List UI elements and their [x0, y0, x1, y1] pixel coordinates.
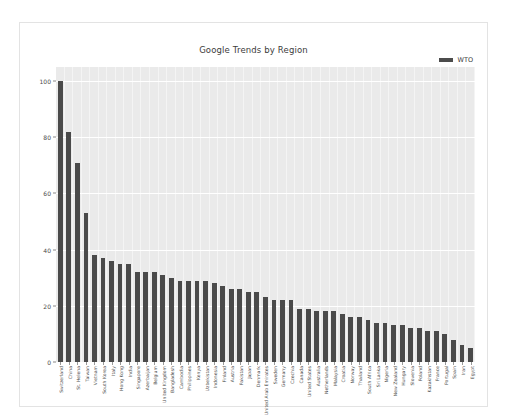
bar-slot — [424, 67, 433, 362]
bar-slot — [235, 67, 244, 362]
bar — [451, 340, 456, 362]
bar-slot — [295, 67, 304, 362]
x-tick-mark — [120, 362, 121, 365]
x-tick-mark — [206, 362, 207, 365]
y-tick-label: 80 — [43, 134, 51, 141]
bar-slot — [176, 67, 185, 362]
y-tick-label: 100 — [40, 78, 51, 85]
x-tick: France — [432, 362, 441, 420]
x-tick-mark — [325, 362, 326, 365]
x-tick: Nigeria — [381, 362, 390, 420]
bar-slot — [150, 67, 159, 362]
x-tick-mark — [385, 362, 386, 365]
bar — [442, 334, 447, 362]
x-tick-mark — [188, 362, 189, 365]
bar-slot — [193, 67, 202, 362]
x-tick: Hong Kong — [116, 362, 125, 420]
legend-label-wto: WTO — [457, 56, 473, 64]
bar — [434, 331, 439, 362]
bar-slot — [432, 67, 441, 362]
y-tick: 20 — [43, 302, 56, 309]
x-tick-mark — [60, 362, 61, 365]
y-tick-label: 0 — [47, 359, 51, 366]
bar-slot — [184, 67, 193, 362]
x-tick: South Korea — [99, 362, 108, 420]
x-tick-mark — [419, 362, 420, 365]
bar — [425, 331, 430, 362]
x-tick-mark — [240, 362, 241, 365]
x-tick-mark — [137, 362, 138, 365]
bar — [400, 325, 405, 362]
bar — [212, 283, 217, 362]
x-tick-mark — [471, 362, 472, 365]
x-tick: Iran — [458, 362, 467, 420]
x-tick: Germany — [278, 362, 287, 420]
x-tick: Indonesia — [210, 362, 219, 420]
bar-slot — [415, 67, 424, 362]
bar — [126, 264, 131, 362]
bar — [58, 81, 63, 362]
x-tick-mark — [402, 362, 403, 365]
x-tick-mark — [265, 362, 266, 365]
bar — [272, 300, 277, 362]
x-tick-mark — [368, 362, 369, 365]
x-tick: United States — [304, 362, 313, 420]
x-tick: India — [124, 362, 133, 420]
x-tick: United Arab Emirates — [261, 362, 270, 420]
x-tick-mark — [428, 362, 429, 365]
bar-slot — [278, 67, 287, 362]
bar — [366, 320, 371, 362]
bar-slot — [372, 67, 381, 362]
x-tick-mark — [308, 362, 309, 365]
x-tick: Malaysia — [330, 362, 339, 420]
x-tick: Netherlands — [321, 362, 330, 420]
x-tick-mark — [163, 362, 164, 365]
bar — [417, 328, 422, 362]
bar-series-wto — [56, 67, 475, 362]
y-tick: 0 — [47, 359, 56, 366]
y-tick: 80 — [43, 134, 56, 141]
y-tick-label: 40 — [43, 246, 51, 253]
bar-slot — [116, 67, 125, 362]
bar-slot — [124, 67, 133, 362]
bar — [101, 258, 106, 362]
bar — [220, 286, 225, 362]
bar — [109, 261, 114, 362]
y-tick: 100 — [40, 78, 56, 85]
x-tick-mark — [377, 362, 378, 365]
bar-slot — [466, 67, 475, 362]
x-tick-mark — [351, 362, 352, 365]
x-tick: Croatia — [338, 362, 347, 420]
bar — [460, 345, 465, 362]
x-tick-mark — [94, 362, 95, 365]
x-tick: St. Helena — [73, 362, 82, 420]
x-tick: Slovenia — [406, 362, 415, 420]
x-tick-mark — [300, 362, 301, 365]
bar-slot — [330, 67, 339, 362]
y-tick-label: 60 — [43, 190, 51, 197]
bar-slot — [347, 67, 356, 362]
bar-slot — [99, 67, 108, 362]
x-tick: Canada — [295, 362, 304, 420]
x-tick: Azerbaijan — [141, 362, 150, 420]
x-axis: SwitzerlandChinaSt. HelenaTaiwanVietnamS… — [56, 362, 475, 420]
x-tick-mark — [223, 362, 224, 365]
bar-slot — [449, 67, 458, 362]
bar — [135, 272, 140, 362]
x-tick-mark — [69, 362, 70, 365]
bar — [118, 264, 123, 362]
x-tick: Czechia — [287, 362, 296, 420]
x-tick: Vietnam — [90, 362, 99, 420]
x-tick-label: Egypt — [471, 366, 476, 379]
bar-slot — [159, 67, 168, 362]
bar — [297, 309, 302, 362]
x-tick: Egypt — [466, 362, 475, 420]
x-tick: Taiwan — [82, 362, 91, 420]
x-tick-mark — [86, 362, 87, 365]
bar — [391, 325, 396, 362]
x-tick: Austria — [227, 362, 236, 420]
x-tick: Italy — [107, 362, 116, 420]
bar-slot — [141, 67, 150, 362]
bar-slot — [287, 67, 296, 362]
bar-slot — [355, 67, 364, 362]
